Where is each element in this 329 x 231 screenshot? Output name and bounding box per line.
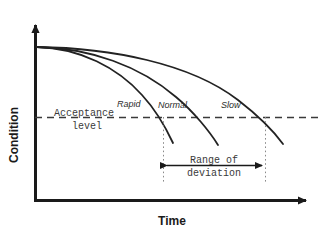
range-label-line1: Range of <box>190 155 238 166</box>
x-axis-label: Time <box>158 214 186 228</box>
curve-label-rapid: Rapid <box>117 99 142 109</box>
range-label-line2: deviation <box>187 168 241 179</box>
chart-canvas: Condition Time Rapid Normal Slow Accepta… <box>0 0 329 231</box>
curve-label-slow: Slow <box>221 100 241 110</box>
deterioration-curve-figure: Condition Time Rapid Normal Slow Accepta… <box>0 0 329 231</box>
curve-normal <box>37 47 218 145</box>
acceptance-label-line2: level <box>72 121 102 132</box>
curve-label-normal: Normal <box>158 100 188 110</box>
acceptance-label-line1: Acceptance <box>54 108 114 119</box>
y-axis-label: Condition <box>7 107 21 163</box>
